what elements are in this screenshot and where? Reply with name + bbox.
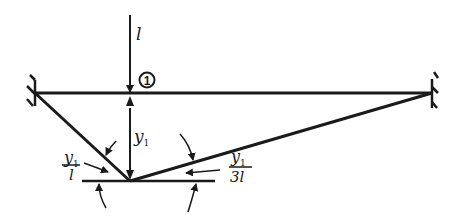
left-angle-arrow bbox=[106, 141, 116, 155]
right-fixed-support bbox=[432, 72, 438, 108]
deflection-arrow-up bbox=[126, 96, 134, 106]
deflection-label: y1 bbox=[133, 126, 149, 148]
right-slope-pointer-arrow bbox=[186, 170, 220, 173]
deflected-left-segment bbox=[35, 93, 130, 181]
left-fixed-support bbox=[27, 75, 35, 106]
load-label: l bbox=[136, 24, 141, 44]
left-slope-pointer-arrow bbox=[84, 163, 108, 172]
node-marker-label: 1 bbox=[144, 74, 151, 88]
right-angle-arrow bbox=[180, 134, 193, 160]
left-slope-denominator: l bbox=[69, 166, 74, 184]
right-slope-numerator: y1 bbox=[230, 147, 246, 168]
right-slope-denominator: 3l bbox=[230, 168, 245, 186]
right-baseline-arrow bbox=[188, 184, 196, 212]
left-baseline-arrow bbox=[99, 184, 106, 208]
beam-influence-diagram: l 1 y1 y1 l y1 3l bbox=[0, 0, 463, 224]
deflected-right-segment bbox=[130, 93, 432, 181]
